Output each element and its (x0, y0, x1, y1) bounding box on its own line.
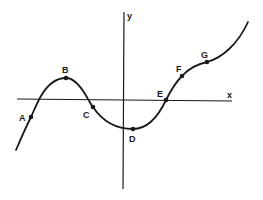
y-axis (123, 12, 124, 189)
point-e-label: E (157, 89, 163, 99)
y-axis-label: y (127, 11, 132, 21)
point-f-label: F (176, 64, 182, 74)
point-e-marker (164, 98, 169, 103)
function-graph-diagram: x y A B C D E F G (0, 0, 263, 200)
point-g-label: G (201, 50, 208, 60)
point-d-label: D (129, 134, 136, 144)
x-axis-label: x (227, 90, 232, 100)
point-c-marker (91, 105, 96, 110)
graph-canvas: x y A B C D E F G (0, 0, 263, 200)
point-b-marker (64, 76, 69, 81)
point-b-label: B (62, 65, 69, 75)
x-axis (17, 99, 232, 101)
point-g-marker (205, 60, 210, 65)
point-f-marker (180, 74, 185, 79)
point-a-marker (29, 115, 34, 120)
point-d-marker (131, 127, 136, 132)
point-a-label: A (19, 113, 26, 123)
point-c-label: C (83, 110, 90, 120)
